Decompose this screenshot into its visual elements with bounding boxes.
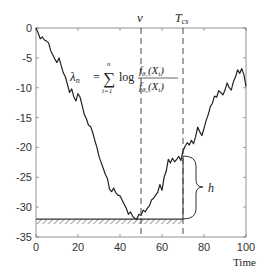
- formula-sum-top: n: [107, 60, 111, 68]
- x-tick-label: 20: [72, 241, 84, 253]
- x-tick-label: 80: [198, 241, 210, 253]
- minimum-hatch: [36, 219, 183, 224]
- x-tick-label: 100: [237, 241, 255, 253]
- y-tick-label: -30: [16, 201, 32, 213]
- x-tick-label: 60: [156, 241, 168, 253]
- formula-denominator: fθ₀(Xi): [139, 80, 164, 94]
- formula-sum-bottom: i=1: [102, 87, 112, 95]
- tcs-sub: cs: [182, 17, 189, 26]
- formula-log: log: [119, 70, 134, 84]
- y-tick-label: -10: [16, 82, 32, 94]
- likelihood-ratio-formula: λn = ∑ n i=1 log fθ₁(Xi) fθ₀(Xi): [69, 60, 178, 95]
- x-tick-label: 0: [33, 241, 39, 253]
- h-label: h: [208, 181, 214, 195]
- y-axis: 0-5-10-15-20-25-30-35: [16, 22, 246, 243]
- y-tick-label: -35: [16, 231, 32, 243]
- x-axis-label: Time: [233, 256, 256, 268]
- chart-canvas: 0-5-10-15-20-25-30-35 020406080100 ν Tcs…: [0, 0, 268, 276]
- h-brace: [183, 156, 203, 219]
- formula-numerator: fθ₁(Xi): [139, 64, 164, 78]
- y-tick-label: -20: [16, 141, 32, 153]
- y-tick-label: -25: [16, 171, 32, 183]
- formula-lhs: λn: [69, 69, 80, 85]
- y-tick-label: -15: [16, 112, 32, 124]
- tcs-label: Tcs: [175, 11, 188, 26]
- x-tick-label: 40: [114, 241, 126, 253]
- y-tick-label: -5: [22, 52, 32, 64]
- formula-sum: ∑: [103, 69, 115, 88]
- nu-label: ν: [137, 10, 143, 25]
- formula-equals: =: [93, 70, 100, 84]
- y-tick-label: 0: [26, 22, 32, 34]
